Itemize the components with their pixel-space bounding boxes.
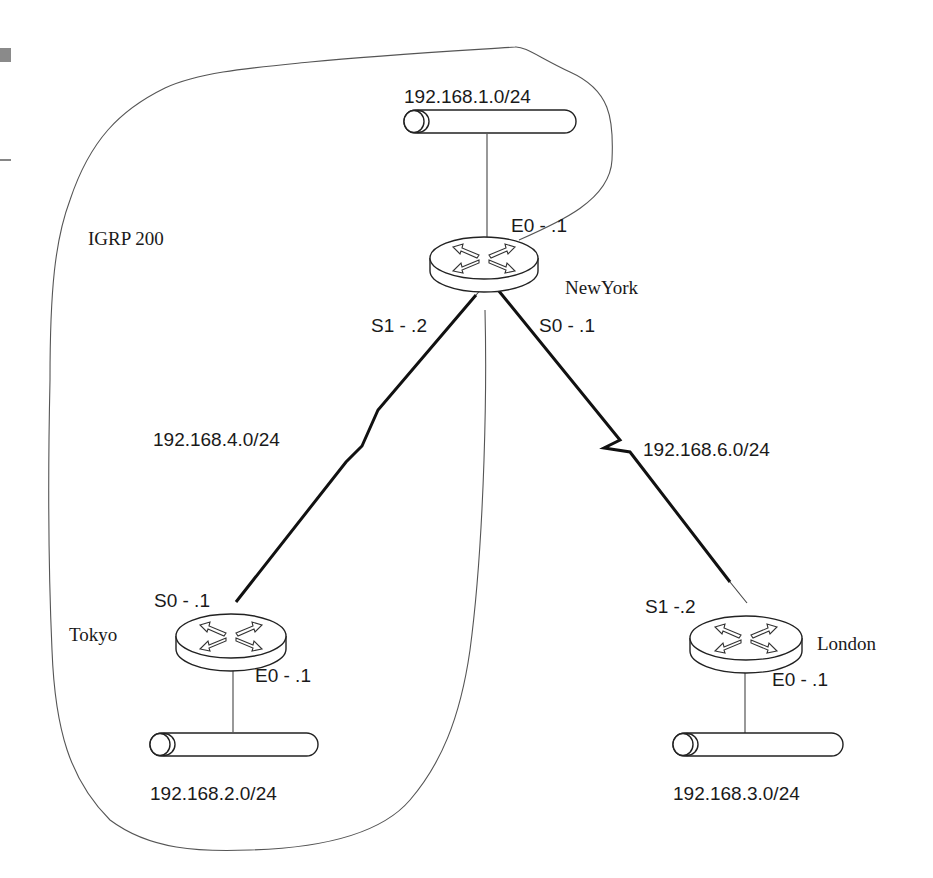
ny-s0-label: S0 - .1 bbox=[539, 315, 595, 336]
ny-e0-label: E0 - .1 bbox=[511, 215, 567, 236]
router-name-newyork: NewYork bbox=[565, 277, 639, 298]
london-s1-label: S1 -.2 bbox=[645, 596, 696, 617]
margin-marker bbox=[0, 48, 11, 62]
router-london bbox=[690, 616, 802, 673]
network-label-192-168-3: 192.168.3.0/24 bbox=[673, 783, 800, 804]
network-label-192-168-2: 192.168.2.0/24 bbox=[150, 783, 277, 804]
tokyo-e0-label: E0 - .1 bbox=[255, 665, 311, 686]
network-diagram: IGRP 200 192.168.1.0/24 E0 - .1 NewYork … bbox=[0, 0, 933, 878]
lan-segment-192-168-3 bbox=[673, 733, 843, 756]
network-label-192-168-6: 192.168.6.0/24 bbox=[643, 439, 770, 460]
network-label-192-168-1: 192.168.1.0/24 bbox=[404, 86, 531, 107]
network-label-192-168-4: 192.168.4.0/24 bbox=[153, 429, 280, 450]
london-e0-label: E0 - .1 bbox=[772, 669, 828, 690]
igrp-domain-label: IGRP 200 bbox=[88, 228, 164, 249]
router-name-london: London bbox=[817, 633, 877, 654]
serial-link-ny-london bbox=[494, 285, 730, 582]
lan-segment-192-168-1 bbox=[404, 110, 576, 133]
router-tokyo bbox=[176, 614, 286, 671]
ny-london-thin-tail bbox=[730, 582, 747, 603]
router-newyork bbox=[430, 237, 538, 292]
ny-s1-label: S1 - .2 bbox=[371, 315, 427, 336]
tokyo-s0-label: S0 - .1 bbox=[154, 590, 210, 611]
router-name-tokyo: Tokyo bbox=[69, 624, 117, 645]
lan-segment-192-168-2 bbox=[150, 733, 318, 756]
igrp-domain-boundary bbox=[49, 47, 613, 851]
